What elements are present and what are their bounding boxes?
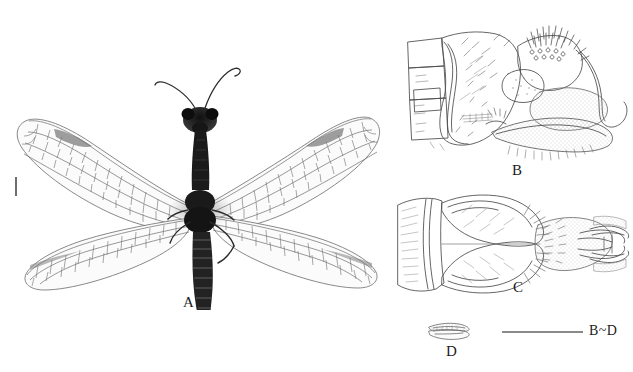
abdomen: [192, 232, 213, 310]
panel-c-label: C: [513, 279, 524, 296]
figure-plate: B: [0, 0, 633, 372]
panel-a-label: A: [183, 294, 194, 311]
panel-c-genitalia-ventral: C: [390, 185, 633, 305]
genitalia-scale-bar: [502, 331, 583, 333]
habitus-scale-tick: [15, 177, 17, 196]
right-hindwing: [212, 216, 377, 288]
body: [155, 68, 240, 310]
panel-b-genitalia-lateral: B: [400, 20, 633, 165]
antennae: [155, 68, 240, 110]
panel-a-habitus: [0, 50, 390, 310]
genitalia-ventral-drawing: [390, 185, 633, 305]
left-forewing: [17, 119, 190, 229]
genitalia-lateral-drawing: [400, 20, 633, 165]
left-hindwing: [25, 218, 190, 290]
metathorax: [184, 207, 216, 233]
habitus-drawing: [0, 50, 390, 310]
right-forewing: [210, 117, 379, 228]
head: [182, 107, 219, 134]
panel-b-label: B: [512, 162, 523, 179]
scale-bar-label: B~D: [589, 323, 617, 339]
panel-d-label: D: [446, 343, 457, 360]
panel-d-sclerite: D: [425, 318, 475, 348]
